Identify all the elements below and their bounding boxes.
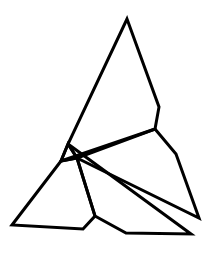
polygon-figure [0, 0, 219, 253]
right-wing-polygon [77, 129, 199, 218]
figure-canvas [0, 0, 219, 253]
shape-group [12, 19, 199, 234]
tall-upper-polygon [61, 19, 159, 161]
lower-left-polygon [12, 158, 95, 229]
